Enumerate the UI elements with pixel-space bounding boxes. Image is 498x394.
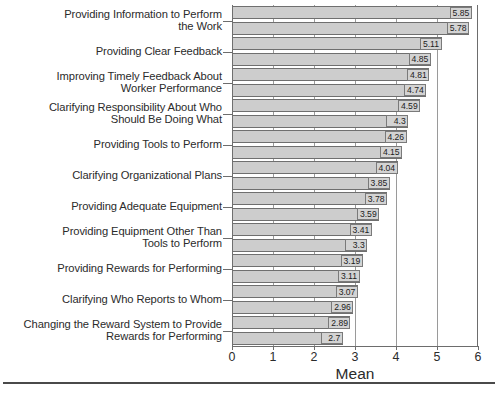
bar-value-label: 3.78	[365, 193, 387, 205]
bar-row: 3.19	[232, 254, 478, 267]
bar-value-label: 4.04	[376, 162, 398, 174]
category-label: Clarifying Responsibility About Who Shou…	[0, 101, 222, 126]
y-axis-tick	[223, 21, 232, 22]
bar-row: 4.15	[232, 146, 478, 159]
bar-value-label: 4.26	[385, 131, 407, 143]
y-axis-tick	[223, 83, 232, 84]
bar	[232, 53, 431, 66]
bar	[232, 130, 407, 143]
bar-row: 3.3	[232, 239, 478, 252]
bar-row: 4.74	[232, 84, 478, 97]
category-label: Providing Adequate Equipment	[0, 200, 222, 213]
x-axis-tick-label: 5	[424, 350, 450, 365]
plot-area: 5.855.785.114.854.814.744.594.34.264.154…	[232, 5, 478, 346]
bar-row: 4.59	[232, 99, 478, 112]
bar-chart-figure: Providing Information to Perform the Wor…	[0, 0, 498, 394]
bar-value-label: 3.85	[368, 177, 390, 189]
category-label: Changing the Reward System to Provide Re…	[0, 318, 222, 343]
bar-value-label: 2.89	[328, 317, 350, 329]
bar-row: 5.78	[232, 22, 478, 35]
y-axis-tick	[223, 207, 232, 208]
bar-value-label: 4.59	[398, 100, 420, 112]
bar-value-label: 4.15	[380, 146, 402, 158]
bar-row: 2.7	[232, 332, 478, 345]
bar-row: 4.85	[232, 53, 478, 66]
bar-row: 5.85	[232, 6, 478, 19]
category-label: Providing Clear Feedback	[0, 45, 222, 58]
bar	[232, 146, 402, 159]
bar-value-label: 2.96	[331, 301, 353, 313]
bar-value-label: 2.7	[321, 332, 343, 344]
y-axis-tick	[223, 145, 232, 146]
bar-value-label: 3.11	[338, 270, 360, 282]
bar-row: 4.81	[232, 68, 478, 81]
bar	[232, 6, 472, 19]
bar	[232, 115, 408, 128]
bar-row: 4.3	[232, 115, 478, 128]
bar-row: 3.11	[232, 270, 478, 283]
bar-row: 3.07	[232, 285, 478, 298]
category-label: Providing Information to Perform the Wor…	[0, 8, 222, 33]
x-axis-tick-label: 2	[301, 350, 327, 365]
x-axis-tick-label: 1	[260, 350, 286, 365]
bar	[232, 68, 429, 81]
bar-row: 2.89	[232, 316, 478, 329]
x-axis-title: Mean	[232, 365, 478, 383]
bar-row: 3.85	[232, 177, 478, 190]
bar	[232, 84, 426, 97]
category-label: Improving Timely Feedback About Worker P…	[0, 70, 222, 95]
bar-row: 3.41	[232, 223, 478, 236]
x-axis-tick-label: 4	[383, 350, 409, 365]
y-axis-tick	[223, 52, 232, 53]
bar	[232, 22, 469, 35]
bar-row: 4.26	[232, 130, 478, 143]
bar-value-label: 4.85	[409, 53, 431, 65]
bar-row: 4.04	[232, 161, 478, 174]
category-label: Providing Equipment Other Than Tools to …	[0, 225, 222, 250]
category-label: Providing Rewards for Performing	[0, 262, 222, 275]
y-axis-tick	[223, 331, 232, 332]
category-label: Clarifying Who Reports to Whom	[0, 293, 222, 306]
bar	[232, 99, 420, 112]
bar-value-label: 3.3	[345, 239, 367, 251]
bar-row: 3.59	[232, 208, 478, 221]
bar-value-label: 4.3	[386, 115, 408, 127]
bar-value-label: 5.11	[420, 38, 442, 50]
y-axis-tick	[223, 238, 232, 239]
category-label-column: Providing Information to Perform the Wor…	[0, 5, 222, 346]
bar-value-label: 4.81	[407, 69, 429, 81]
bar-value-label: 4.74	[404, 84, 426, 96]
bar	[232, 37, 442, 50]
bar-value-label: 3.07	[336, 286, 358, 298]
bar	[232, 192, 387, 205]
bar	[232, 177, 390, 190]
bar-row: 2.96	[232, 301, 478, 314]
bar-value-label: 3.19	[341, 255, 363, 267]
bar-value-label: 5.85	[450, 7, 472, 19]
bar-value-label: 3.41	[350, 224, 372, 236]
y-axis-tick	[223, 114, 232, 115]
bar-row: 3.78	[232, 192, 478, 205]
x-axis-tick-label: 0	[219, 350, 245, 365]
x-axis-tick-label: 3	[342, 350, 368, 365]
x-axis-tick-label: 6	[465, 350, 491, 365]
bar-value-label: 5.78	[447, 22, 469, 34]
y-axis-tick	[223, 269, 232, 270]
bar-value-label: 3.59	[357, 208, 379, 220]
bar-row: 5.11	[232, 37, 478, 50]
category-label: Providing Tools to Perform	[0, 138, 222, 151]
y-axis-tick	[223, 176, 232, 177]
category-label: Clarifying Organizational Plans	[0, 169, 222, 182]
bar	[232, 161, 398, 174]
y-axis-tick	[223, 300, 232, 301]
bottom-divider-rule	[3, 382, 495, 384]
